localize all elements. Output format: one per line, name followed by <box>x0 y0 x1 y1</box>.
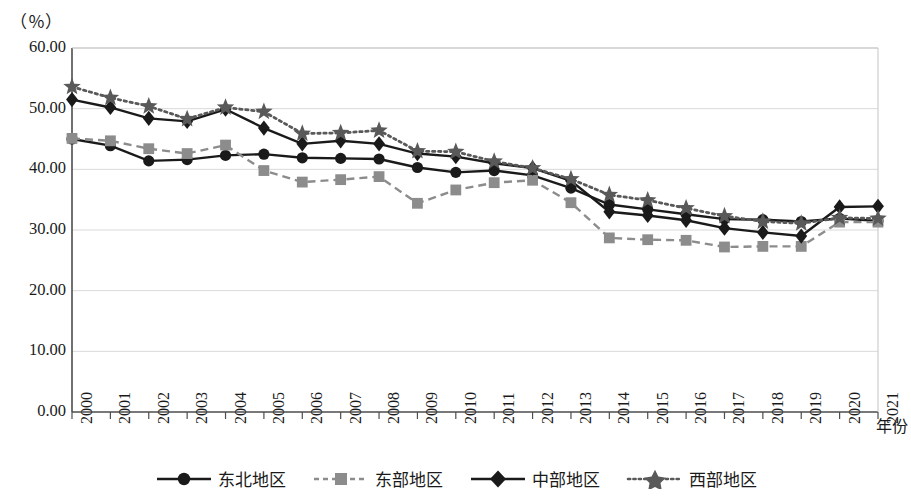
legend-swatch-circle-icon <box>155 469 213 489</box>
x-axis-tick-label: 2007 <box>347 392 365 424</box>
x-axis-tick-label: 2003 <box>193 392 211 424</box>
x-axis-tick-label: 2004 <box>232 392 250 424</box>
x-axis-tick-labels: 2000200120022003200420052006200720082009… <box>0 0 911 498</box>
legend-item-east[interactable]: 东部地区 <box>312 466 443 491</box>
legend-label-west: 西部地区 <box>689 466 757 491</box>
legend-label-northeast: 东北地区 <box>218 466 286 491</box>
x-axis-tick-label: 2010 <box>462 392 480 424</box>
legend-swatch-diamond-icon <box>469 469 527 489</box>
x-axis-tick-label: 2016 <box>692 392 710 424</box>
x-axis-tick-label: 2017 <box>730 392 748 424</box>
x-axis-tick-label: 2001 <box>116 392 134 424</box>
x-axis-tick-label: 2015 <box>654 392 672 424</box>
x-axis-tick-label: 2019 <box>807 392 825 424</box>
x-axis-title: 年份 <box>876 413 908 437</box>
x-axis-tick-label: 2012 <box>539 392 557 424</box>
x-axis-tick-label: 2008 <box>385 392 403 424</box>
x-axis-tick-label: 2013 <box>577 392 595 424</box>
x-axis-tick-label: 2005 <box>270 392 288 424</box>
x-axis-tick-label: 2018 <box>769 392 787 424</box>
chart-figure: （％） 0.0010.0020.0030.0040.0050.0060.00 2… <box>0 0 911 498</box>
legend-label-central: 中部地区 <box>532 466 600 491</box>
x-axis-tick-label: 2011 <box>500 393 518 424</box>
legend-swatch-square-icon <box>312 469 370 489</box>
x-axis-tick-label: 2009 <box>423 392 441 424</box>
chart-legend: 东北地区 东部地区 中部地区 西部地区 <box>0 466 911 491</box>
x-axis-tick-label: 2014 <box>615 392 633 424</box>
x-axis-tick-label: 2002 <box>155 392 173 424</box>
legend-item-west[interactable]: 西部地区 <box>626 466 757 491</box>
x-axis-tick-label: 2000 <box>78 392 96 424</box>
legend-label-east: 东部地区 <box>375 466 443 491</box>
legend-item-northeast[interactable]: 东北地区 <box>155 466 286 491</box>
legend-item-central[interactable]: 中部地区 <box>469 466 600 491</box>
x-axis-tick-label: 2006 <box>308 392 326 424</box>
legend-swatch-star-icon <box>626 469 684 489</box>
x-axis-tick-label: 2020 <box>846 392 864 424</box>
